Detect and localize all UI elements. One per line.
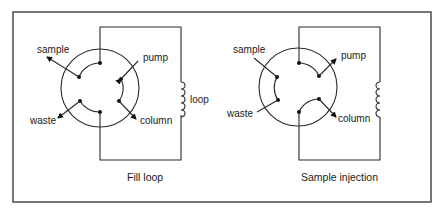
channel-sample-loop <box>79 63 100 77</box>
label-sample: sample <box>37 44 70 55</box>
waste-arrow-icon <box>58 101 80 118</box>
sample-leader-line <box>254 58 277 77</box>
panel-sample-injection: sample pump waste column Sample injectio… <box>226 27 380 183</box>
waste-leader-line <box>257 100 278 112</box>
channel-loop-pump <box>299 63 319 76</box>
label-pump: pump <box>341 50 366 61</box>
sample-arrow-icon <box>47 57 79 77</box>
caption-sample-injection: Sample injection <box>301 171 378 183</box>
port-dot <box>297 110 301 114</box>
label-sample: sample <box>233 44 266 55</box>
channel-sample-waste <box>274 77 278 100</box>
channel-waste-loop <box>80 101 100 112</box>
valve-diagram: sample pump loop waste column Fill loop … <box>0 0 445 210</box>
label-column: column <box>338 113 370 124</box>
label-waste: waste <box>226 108 254 119</box>
loop-line-top <box>100 27 181 82</box>
valve-body <box>259 48 337 126</box>
port-dot <box>98 110 102 114</box>
label-loop: loop <box>190 94 209 105</box>
port-dot <box>297 61 301 65</box>
column-arrow-icon <box>319 99 336 117</box>
label-pump: pump <box>143 52 168 63</box>
channel-pump-column <box>119 79 123 101</box>
channel-loop-column <box>299 99 319 112</box>
loop-coil-icon <box>181 82 185 117</box>
pump-arrow-icon <box>121 61 138 79</box>
loop-line-top <box>299 27 380 82</box>
loop-coil-icon <box>376 82 380 117</box>
port-dot <box>98 61 102 65</box>
label-waste: waste <box>29 115 57 126</box>
panel-fill-loop: sample pump loop waste column Fill loop <box>29 27 209 183</box>
caption-fill-loop: Fill loop <box>127 171 163 183</box>
label-column: column <box>140 115 172 126</box>
